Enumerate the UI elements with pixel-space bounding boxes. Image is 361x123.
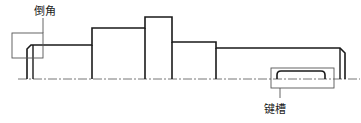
keyway-label: 键槽 [264, 100, 286, 116]
shaft-drawing [0, 0, 361, 123]
chamfer-label: 倒角 [34, 2, 56, 18]
shaft-diagram: 倒角 键槽 [0, 0, 361, 123]
keyway-slot [277, 71, 325, 79]
shaft-profile [27, 17, 345, 79]
